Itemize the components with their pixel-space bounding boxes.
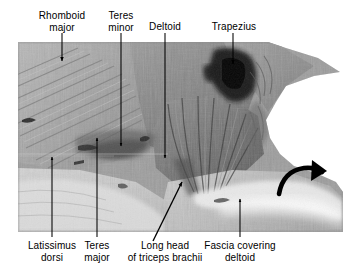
label-line: Fascia covering [199,240,281,252]
dissection-photograph [18,42,343,232]
label-line: Long head [122,240,208,252]
label-line: Trapezius [203,21,265,33]
label-line: deltoid [199,252,281,264]
label-long-head-triceps: Long head of triceps brachii [122,240,208,263]
label-line: Teres [74,240,120,252]
label-fascia-covering-deltoid: Fascia covering deltoid [199,240,281,263]
label-line: major [33,22,91,34]
label-line: major [74,252,120,264]
label-line: of triceps brachii [122,252,208,264]
label-line: Teres [97,10,145,22]
label-rhomboid-major: Rhomboid major [33,10,91,33]
photograph-canvas [18,42,343,232]
label-deltoid: Deltoid [137,21,193,33]
label-line: Deltoid [137,21,193,33]
anatomy-figure: Rhomboid major Teres minor Deltoid Trape… [0,0,343,276]
label-trapezius: Trapezius [203,21,265,33]
label-line: Rhomboid [33,10,91,22]
label-teres-major: Teres major [74,240,120,263]
specimen-tissue [18,42,343,232]
